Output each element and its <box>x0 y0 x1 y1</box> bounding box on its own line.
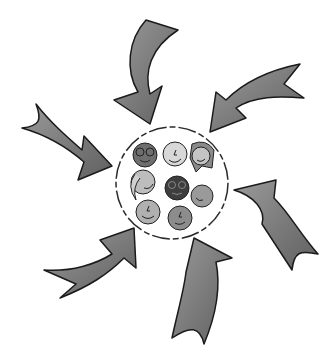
face-medium <box>168 206 192 230</box>
arrow-top-icon <box>114 20 178 124</box>
arrow-bottom-icon <box>172 238 232 344</box>
face-profile <box>191 185 213 207</box>
arrow-left-icon <box>22 104 112 180</box>
face-glasses-darkest <box>165 176 189 200</box>
arrow-bottom-left-icon <box>44 228 136 298</box>
face-glasses-dark <box>133 143 157 167</box>
arrow-right-icon <box>234 180 318 270</box>
illustration <box>0 0 334 362</box>
face-smile <box>136 200 160 224</box>
face-light <box>163 142 187 166</box>
arrow-top-right-icon <box>210 64 304 132</box>
teamwork-illustration <box>0 0 334 362</box>
